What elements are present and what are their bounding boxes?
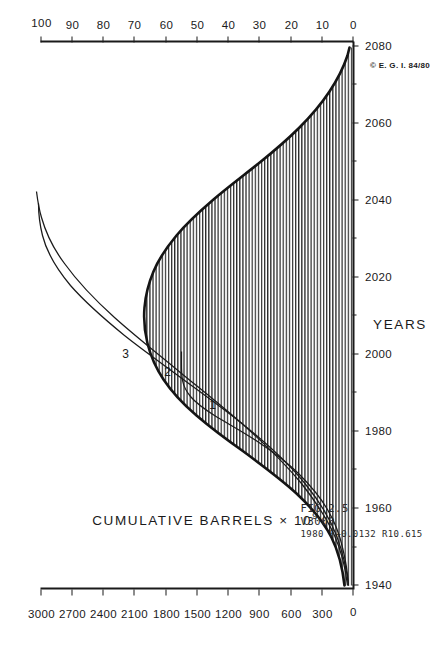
cum-tick-1500 xyxy=(196,589,197,595)
copyright-notice: © E. G. I. 84/80 xyxy=(369,60,429,69)
ann-tick-90 xyxy=(71,36,72,42)
year-tick-1940 xyxy=(352,584,358,585)
y-axis-title: CUMULATIVE BARRELS × 109 xyxy=(92,510,317,527)
ann-tick-0 xyxy=(352,36,353,42)
ann-label-20: 20 xyxy=(284,18,298,30)
ann-tick-80 xyxy=(102,36,103,42)
cum-label-2100: 2100 xyxy=(120,607,147,619)
cum-label-1200: 1200 xyxy=(214,607,241,619)
ann-label-90: 90 xyxy=(65,18,79,30)
ann-label-30: 30 xyxy=(252,18,266,30)
ann-label-50: 50 xyxy=(190,18,204,30)
ann-tick-60 xyxy=(165,36,166,42)
model-code: V3000 xyxy=(300,514,422,527)
year-tick-minor xyxy=(352,237,356,238)
ann-label-40: 40 xyxy=(221,18,235,30)
cum-label-0: 0 xyxy=(350,606,357,618)
cum-label-1800: 1800 xyxy=(152,607,179,619)
year-label-2020: 2020 xyxy=(364,270,391,282)
ann-tick-30 xyxy=(258,36,259,42)
cum-tick-2100 xyxy=(133,589,134,595)
curve-label-3: 3 xyxy=(122,347,129,361)
cum-tick-300 xyxy=(321,589,322,595)
cum-tick-1200 xyxy=(227,589,228,595)
cum-label-1500: 1500 xyxy=(183,607,210,619)
year-tick-minor xyxy=(352,83,356,84)
cum-label-3000: 3000 xyxy=(27,607,54,619)
ann-tick-100 xyxy=(40,36,41,42)
cum-label-300: 300 xyxy=(312,608,332,620)
year-label-2000: 2000 xyxy=(364,347,391,359)
cum-tick-2700 xyxy=(71,589,72,595)
ann-label-80: 80 xyxy=(96,18,110,30)
year-tick-minor xyxy=(352,391,356,392)
ann-label-0: 0 xyxy=(350,19,357,31)
year-tick-2020 xyxy=(352,276,358,277)
ann-tick-70 xyxy=(133,36,134,42)
cum-tick-3000 xyxy=(40,589,41,595)
x-axis-title: YEARS xyxy=(373,317,427,332)
year-tick-2080 xyxy=(352,45,358,46)
year-label-2060: 2060 xyxy=(364,116,391,128)
year-tick-minor xyxy=(352,546,356,547)
ann-tick-10 xyxy=(321,36,322,42)
year-label-1940: 1940 xyxy=(364,578,391,590)
cum-tick-900 xyxy=(258,589,259,595)
figure-number: FIG.2.5 xyxy=(300,501,422,514)
year-label-2040: 2040 xyxy=(364,193,391,205)
year-label-1980: 1980 xyxy=(364,424,391,436)
year-label-2080: 2080 xyxy=(364,39,391,51)
year-tick-2040 xyxy=(352,199,358,200)
year-tick-minor xyxy=(352,314,356,315)
cum-label-900: 900 xyxy=(249,608,269,620)
model-parameters: 1980 F+0.0132 R10.615 xyxy=(300,527,422,540)
y-axis-title-text: CUMULATIVE BARRELS × 109 xyxy=(92,512,317,527)
year-tick-minor xyxy=(352,160,356,161)
curve-label-1: 1 xyxy=(209,398,216,412)
cum-label-2400: 2400 xyxy=(89,607,116,619)
cum-tick-2400 xyxy=(102,589,103,595)
cum-label-2700: 2700 xyxy=(58,607,85,619)
year-tick-2060 xyxy=(352,122,358,123)
cum-tick-0 xyxy=(352,589,353,595)
ann-label-60: 60 xyxy=(159,18,173,30)
ann-label-10: 10 xyxy=(315,18,329,30)
year-tick-minor xyxy=(352,468,356,469)
figure-annotation-block: FIG.2.5 V3000 1980 F+0.0132 R10.615 xyxy=(300,501,422,540)
ann-label-70: 70 xyxy=(127,18,141,30)
ann-tick-20 xyxy=(290,36,291,42)
ann-tick-40 xyxy=(227,36,228,42)
cum-tick-1800 xyxy=(165,589,166,595)
cum-tick-600 xyxy=(290,589,291,595)
year-tick-1980 xyxy=(352,430,358,431)
cum-label-600: 600 xyxy=(281,608,301,620)
ann-tick-50 xyxy=(196,36,197,42)
ann-label-100: 100 xyxy=(31,17,51,29)
year-tick-2000 xyxy=(352,353,358,354)
curve-label-2: 2 xyxy=(164,365,171,379)
